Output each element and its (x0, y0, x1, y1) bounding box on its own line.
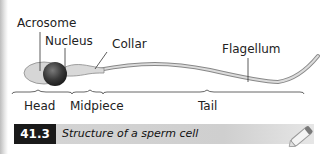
label-head: Head (24, 100, 55, 112)
figure-number: 41.3 (14, 124, 56, 144)
midpiece-bracket (72, 90, 103, 94)
collar-leader (95, 52, 107, 69)
label-midpiece: Midpiece (70, 100, 124, 112)
label-collar: Collar (112, 38, 147, 50)
label-tail: Tail (198, 100, 217, 112)
head-bracket (12, 90, 72, 94)
label-nucleus: Nucleus (45, 35, 93, 47)
pencil-icon (288, 122, 318, 148)
nucleus-shape (43, 62, 67, 86)
tail-bracket (103, 90, 304, 94)
label-acrosome: Acrosome (17, 17, 76, 29)
label-flagellum: Flagellum (222, 43, 281, 55)
figure-caption: Structure of a sperm cell (62, 124, 198, 144)
